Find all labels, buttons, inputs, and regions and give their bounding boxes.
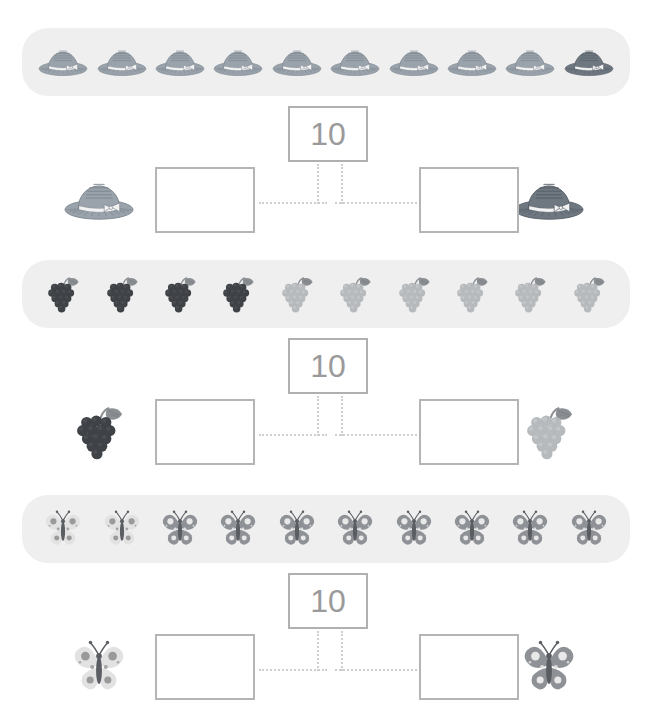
strip-item-hat-10 [563, 36, 615, 88]
strip-item-hat-2 [96, 36, 148, 88]
strip-item-grapes-6 [329, 268, 381, 320]
connector-horizontal-right-grapes [335, 434, 421, 436]
strip-item-butterfly-7 [388, 503, 440, 555]
strip-item-butterfly-8 [446, 503, 498, 555]
strip-item-butterfly-3 [154, 503, 206, 555]
strip-item-butterfly-9 [504, 503, 556, 555]
strip-item-butterfly-6 [329, 503, 381, 555]
connector-vertical-left-butterflies [317, 631, 319, 671]
strip-item-grapes-10 [563, 268, 615, 320]
strip-item-hat-6 [329, 36, 381, 88]
reference-icon-right-hats [512, 164, 586, 236]
answer-box-left-butterflies[interactable] [155, 634, 255, 700]
strip-item-grapes-5 [271, 268, 323, 320]
strip-item-butterfly-5 [271, 503, 323, 555]
strip-item-grapes-1 [37, 268, 89, 320]
strip-item-hat-8 [446, 36, 498, 88]
strip-item-hat-3 [154, 36, 206, 88]
strip-item-grapes-7 [388, 268, 440, 320]
connector-horizontal-left-butterflies [259, 669, 327, 671]
number-bond-hats: 10 [0, 106, 652, 236]
connector-vertical-left-grapes [317, 396, 319, 436]
answer-box-left-grapes[interactable] [155, 399, 255, 465]
worksheet-title-cropped [0, 0, 652, 6]
reference-icon-left-butterflies [62, 631, 136, 703]
answer-box-right-grapes[interactable] [419, 399, 519, 465]
connector-vertical-right-butterflies [341, 631, 343, 671]
whole-box-hats: 10 [288, 106, 368, 162]
reference-icon-left-grapes [62, 396, 136, 468]
connector-vertical-right-hats [341, 164, 343, 204]
connector-horizontal-left-grapes [259, 434, 327, 436]
reference-icon-right-grapes [512, 396, 586, 468]
strip-item-grapes-8 [446, 268, 498, 320]
number-bond-grapes: 10 [0, 338, 652, 468]
strip-item-hat-4 [212, 36, 264, 88]
strip-item-grapes-2 [96, 268, 148, 320]
reference-icon-right-butterflies [512, 631, 586, 703]
object-strip-hats [22, 28, 630, 96]
connector-horizontal-left-hats [259, 202, 327, 204]
connector-vertical-right-grapes [341, 396, 343, 436]
connector-horizontal-right-butterflies [335, 669, 421, 671]
strip-item-butterfly-2 [96, 503, 148, 555]
answer-box-right-butterflies[interactable] [419, 634, 519, 700]
strip-item-butterfly-1 [37, 503, 89, 555]
connector-vertical-left-hats [317, 164, 319, 204]
strip-item-hat-9 [504, 36, 556, 88]
object-strip-grapes [22, 260, 630, 328]
whole-box-butterflies: 10 [288, 573, 368, 629]
strip-item-grapes-4 [212, 268, 264, 320]
reference-icon-left-hats [62, 164, 136, 236]
strip-item-butterfly-10 [563, 503, 615, 555]
number-bond-butterflies: 10 [0, 573, 652, 703]
answer-box-right-hats[interactable] [419, 167, 519, 233]
strip-item-butterfly-4 [212, 503, 264, 555]
connector-horizontal-right-hats [335, 202, 421, 204]
strip-item-grapes-9 [504, 268, 556, 320]
strip-item-hat-7 [388, 36, 440, 88]
object-strip-butterflies [22, 495, 630, 563]
answer-box-left-hats[interactable] [155, 167, 255, 233]
strip-item-hat-1 [37, 36, 89, 88]
strip-item-grapes-3 [154, 268, 206, 320]
whole-box-grapes: 10 [288, 338, 368, 394]
strip-item-hat-5 [271, 36, 323, 88]
